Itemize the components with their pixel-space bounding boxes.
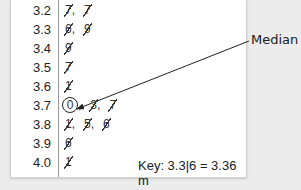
- median-label: Median: [251, 32, 298, 47]
- median-arrow-icon: [0, 0, 301, 190]
